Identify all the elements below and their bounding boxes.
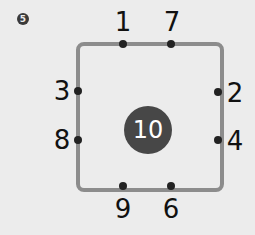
dot-right-2: [214, 136, 222, 144]
number-bottom-1: 9: [115, 196, 132, 222]
number-left-2: 8: [54, 127, 71, 153]
number-bottom-2: 6: [163, 196, 180, 222]
dot-top-2: [167, 40, 175, 48]
number-top-1: 1: [115, 9, 132, 35]
dot-bottom-2: [167, 182, 175, 190]
number-top-2: 7: [164, 9, 181, 35]
dot-bottom-1: [119, 182, 127, 190]
dot-right-1: [214, 88, 222, 96]
dot-left-1: [74, 87, 82, 95]
number-right-2: 4: [227, 128, 244, 154]
center-target-circle: 10: [124, 106, 172, 154]
number-left-1: 3: [54, 78, 71, 104]
dot-top-1: [119, 40, 127, 48]
dot-left-2: [74, 136, 82, 144]
exercise-number-badge: 5: [17, 13, 29, 25]
puzzle-stage: 5 1 7 3 8 2 4 9 6 10: [0, 0, 255, 235]
number-right-1: 2: [227, 80, 244, 106]
